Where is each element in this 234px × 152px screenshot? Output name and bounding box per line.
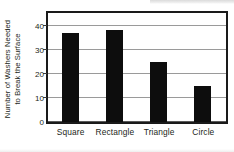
y-tick-label-30: 30 <box>24 45 44 54</box>
scan-artifact-top <box>150 0 234 4</box>
y-tick-label-0: 0 <box>24 117 44 126</box>
y-tick-label-40: 40 <box>24 21 44 30</box>
plot-inner <box>48 13 226 122</box>
y-tick-label-10: 10 <box>24 93 44 102</box>
y-axis-title: Number of Washers Needed to Break the Su… <box>0 0 26 138</box>
x-tick-label-square: Square <box>57 127 85 137</box>
y-axis-title-line-2: to Break the Surface <box>13 20 23 118</box>
y-tickmark-10 <box>43 97 47 98</box>
y-tickmark-20 <box>43 73 47 74</box>
bar-chart-figure: Number of Washers Needed to Break the Su… <box>0 0 234 152</box>
bar-rectangle <box>106 30 123 122</box>
y-tickmark-40 <box>43 25 47 26</box>
y-tickmark-30 <box>43 49 47 50</box>
plot-area <box>46 11 228 124</box>
bar-square <box>62 33 79 122</box>
x-axis-tick-labels: SquareRectangleTriangleCircle <box>46 127 228 143</box>
gridline-40 <box>48 25 226 26</box>
y-axis-title-line-1: Number of Washers Needed <box>3 20 13 118</box>
x-tick-label-triangle: Triangle <box>144 127 175 137</box>
y-tick-label-20: 20 <box>24 69 44 78</box>
scan-artifact-bottom <box>0 149 234 152</box>
y-axis-tick-labels: 010203040 <box>24 0 44 152</box>
bar-triangle <box>150 62 167 122</box>
x-tick-label-circle: Circle <box>192 127 214 137</box>
x-tick-label-rectangle: Rectangle <box>96 127 135 137</box>
bar-circle <box>194 86 211 122</box>
